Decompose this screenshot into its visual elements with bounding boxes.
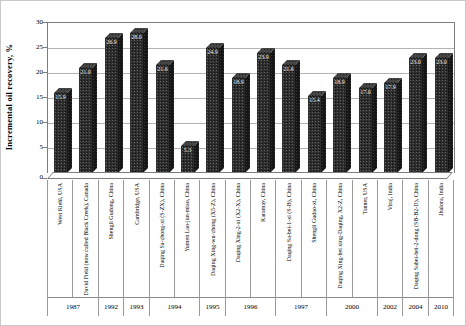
y-tick-label: 30 bbox=[19, 18, 43, 26]
bar-15: 23.0 bbox=[409, 58, 422, 173]
bar-1: 15.9 bbox=[54, 93, 67, 173]
category-label: Jhalora, India bbox=[438, 183, 445, 216]
bar-side-face bbox=[321, 91, 326, 173]
bar-side-face bbox=[143, 28, 148, 173]
category-cell: Daqing Sa-zhong-xi (S-ZX), China bbox=[150, 180, 175, 297]
category-label: Daqing Sa-zhong-xi (S-ZX), China bbox=[159, 183, 166, 268]
category-label: Cambridge, USA bbox=[134, 183, 141, 225]
category-cell: Viraj, India bbox=[378, 180, 403, 297]
category-cell: Cambridge, USA bbox=[124, 180, 150, 297]
year-cell: 2004 bbox=[403, 297, 429, 316]
y-axis-title: Incremental oil recovery, % bbox=[4, 0, 16, 197]
year-cell: 1994 bbox=[150, 297, 200, 316]
bar-side-face bbox=[397, 78, 402, 173]
year-cell: 2000 bbox=[327, 297, 378, 316]
category-cell: Daqing Xing-bei xing-Daqing, X2-Z, China bbox=[327, 180, 353, 297]
bar-value-label: 15.4 bbox=[308, 97, 321, 104]
bar-side-face bbox=[92, 63, 97, 173]
bar-value-label: 21.6 bbox=[156, 66, 169, 73]
category-cell: Daqing Xing-wu-zhong (X5-Z), China bbox=[200, 180, 226, 297]
bar-value-label: 28.0 bbox=[130, 34, 143, 41]
bar-value-label: 17.0 bbox=[359, 89, 372, 96]
category-label: Daqing Xing-wu-zhong (X5-Z), China bbox=[210, 183, 217, 276]
category-cell: David Field (now called Black Creek), Ca… bbox=[73, 180, 99, 297]
category-label: Karamay, China bbox=[260, 183, 267, 222]
category-label: Viraj, India bbox=[387, 183, 394, 210]
y-tick-label: 20 bbox=[19, 68, 43, 76]
x-axis-category-labels: West Kiehl, USADavid Field (now called B… bbox=[47, 180, 454, 298]
category-cell: Daqing Sa-bei-1-xi (S-B), China bbox=[276, 180, 302, 297]
bar-value-label: 18.9 bbox=[333, 79, 346, 86]
bar-value-label: 23.9 bbox=[257, 54, 270, 61]
bar-14: 17.9 bbox=[384, 83, 397, 173]
bar-value-label: 21.6 bbox=[282, 66, 295, 73]
bar-side-face bbox=[372, 83, 377, 173]
bar-side-face bbox=[245, 73, 250, 173]
category-label: Daqing Xing-bei xing-Daqing, X2-Z, China bbox=[337, 183, 344, 289]
bar-value-label: 5.3 bbox=[181, 147, 194, 154]
bar-13: 17.0 bbox=[359, 88, 372, 173]
bar-side-face bbox=[67, 88, 72, 173]
category-label: Daqing Sa-bei-1-xi (S-B), China bbox=[286, 183, 293, 261]
y-tick-label: 0 bbox=[19, 173, 43, 181]
y-tick-label: 15 bbox=[19, 93, 43, 101]
year-cell: 2010 bbox=[429, 297, 454, 316]
category-label: Daqing Xing-2-xi (X2-X), China bbox=[235, 183, 242, 262]
category-label: Daqing Sabei-bei-2-dong (SB-B2-D), China bbox=[413, 183, 420, 289]
chart-3d-floor bbox=[47, 172, 453, 179]
bar-side-face bbox=[118, 33, 123, 173]
bar-value-label: 18.9 bbox=[232, 79, 245, 86]
bar-side-face bbox=[448, 53, 453, 173]
bar-value-label: 23.0 bbox=[409, 59, 422, 66]
bar-value-label: 26.9 bbox=[105, 39, 118, 46]
bar-12: 18.9 bbox=[333, 78, 346, 173]
x-axis-year-row: 1987199219931994199519961997200020022004… bbox=[47, 297, 454, 316]
bar-8: 18.9 bbox=[232, 78, 245, 173]
category-label: Tanner, USA bbox=[362, 183, 369, 214]
bar-side-face bbox=[422, 53, 427, 173]
year-cell: 1997 bbox=[276, 297, 327, 316]
category-cell: Shengli Gudong, China bbox=[99, 180, 124, 297]
bar-side-face bbox=[295, 60, 300, 173]
bar-7: 24.9 bbox=[206, 48, 219, 173]
category-cell: Yumen Lao-jun-miao, China bbox=[175, 180, 200, 297]
category-cell: Daqing Xing-2-xi (X2-X), China bbox=[226, 180, 251, 297]
year-cell: 1993 bbox=[124, 297, 150, 316]
bar-value-label: 21.0 bbox=[79, 69, 92, 76]
bar-value-label: 15.9 bbox=[54, 94, 67, 101]
bar-10: 21.6 bbox=[282, 65, 295, 173]
plot-area: 15.921.026.928.021.65.324.918.923.921.61… bbox=[47, 22, 455, 173]
y-tick-label: 25 bbox=[19, 43, 43, 51]
category-cell: West Kiehl, USA bbox=[48, 180, 73, 297]
category-label: West Kiehl, USA bbox=[57, 183, 64, 225]
category-cell: Karamay, China bbox=[251, 180, 276, 297]
bar-5: 21.6 bbox=[156, 65, 169, 173]
year-cell: 1995 bbox=[200, 297, 226, 316]
bar-side-face bbox=[270, 48, 275, 173]
category-label: Shengli Gudong, China bbox=[108, 183, 115, 240]
bar-9: 23.9 bbox=[257, 53, 270, 173]
bar-2: 21.0 bbox=[79, 68, 92, 173]
year-cell: 2002 bbox=[378, 297, 403, 316]
bar-value-label: 23.0 bbox=[435, 59, 448, 66]
bar-6: 5.3 bbox=[181, 146, 194, 173]
bar-chart-figure: Incremental oil recovery, % 051015202530… bbox=[0, 0, 466, 326]
bar-side-face bbox=[194, 141, 199, 173]
category-cell: Daqing Sabei-bei-2-dong (SB-B2-D), China bbox=[403, 180, 429, 297]
bar-value-label: 17.9 bbox=[384, 84, 397, 91]
year-cell: 1996 bbox=[226, 297, 276, 316]
bar-value-label: 24.9 bbox=[206, 49, 219, 56]
category-label: Shengli Gudao-xi, China bbox=[311, 183, 318, 243]
category-cell: Tanner, USA bbox=[353, 180, 378, 297]
y-tick-label: 10 bbox=[19, 118, 43, 126]
bar-4: 28.0 bbox=[130, 33, 143, 173]
category-label: David Field (now called Black Creek), Ca… bbox=[83, 183, 90, 295]
year-cell: 1987 bbox=[48, 297, 99, 316]
year-cell: 1992 bbox=[99, 297, 124, 316]
category-cell: Jhalora, India bbox=[429, 180, 454, 297]
bar-side-face bbox=[346, 73, 351, 173]
bar-3: 26.9 bbox=[105, 38, 118, 173]
bar-side-face bbox=[219, 43, 224, 173]
bar-side-face bbox=[169, 60, 174, 173]
y-tick-label: 5 bbox=[19, 143, 43, 151]
